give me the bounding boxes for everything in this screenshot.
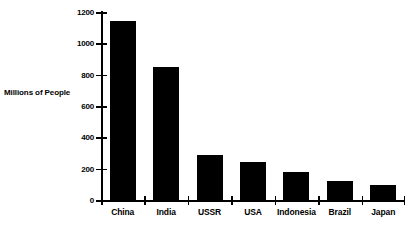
bar (240, 162, 266, 200)
bar (327, 181, 353, 200)
x-axis-category-label: China (101, 207, 144, 217)
y-tick-mark (96, 169, 107, 171)
x-tick-mark (188, 196, 190, 205)
y-axis-title: Millions of People (4, 88, 66, 98)
y-tick-label: 800 (81, 70, 94, 79)
bar (197, 155, 223, 200)
y-tick-mark (96, 12, 107, 14)
x-axis-category-label: Indonesia (275, 207, 318, 217)
y-tick-label: 1000 (77, 39, 94, 48)
bar (370, 185, 396, 200)
y-tick-label: 0 (90, 196, 94, 205)
plot-area: 020040060080010001200 (101, 12, 405, 200)
bar-chart: Millions of People 020040060080010001200… (0, 0, 415, 230)
x-axis-category-label: India (144, 207, 187, 217)
y-tick-mark (96, 75, 107, 77)
y-tick-mark (96, 43, 107, 45)
y-tick-label: 400 (81, 133, 94, 142)
y-tick-mark (96, 137, 107, 139)
y-tick-label: 200 (81, 164, 94, 173)
y-tick-mark (96, 106, 107, 108)
bar (153, 67, 179, 200)
x-tick-mark (362, 196, 364, 205)
x-axis-category-label: Brazil (318, 207, 361, 217)
x-tick-mark (275, 196, 277, 205)
bar (110, 21, 136, 200)
x-tick-mark (144, 196, 146, 205)
x-tick-mark (231, 196, 233, 205)
x-axis-category-label: USSR (188, 207, 231, 217)
x-tick-mark (318, 196, 320, 205)
x-tick-mark (101, 196, 103, 205)
y-tick-label: 1200 (77, 8, 94, 17)
x-tick-mark (404, 196, 406, 205)
y-tick-label: 600 (81, 102, 94, 111)
x-axis-category-label: USA (231, 207, 274, 217)
x-axis-category-label: Japan (362, 207, 405, 217)
bar (283, 172, 309, 200)
x-axis-line (101, 200, 405, 202)
